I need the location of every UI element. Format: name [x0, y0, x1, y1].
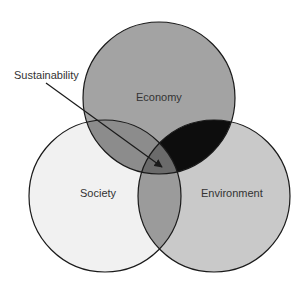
- sustainability-label: Sustainability: [14, 69, 79, 81]
- environment-label: Environment: [201, 187, 263, 199]
- economy-label: Economy: [136, 91, 182, 103]
- society-label: Society: [80, 187, 117, 199]
- venn-diagram: Sustainability Economy Society Environme…: [0, 0, 307, 291]
